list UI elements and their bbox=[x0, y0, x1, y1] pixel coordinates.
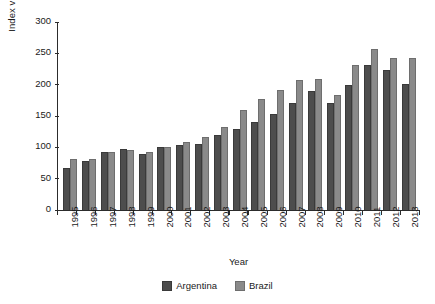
bar-group bbox=[230, 22, 249, 210]
bar-argentina-1997 bbox=[101, 152, 108, 210]
bar-argentina-2010 bbox=[345, 85, 352, 210]
x-tick-label-cell: 2012 bbox=[380, 216, 399, 252]
x-tick-label: 2013 bbox=[409, 206, 420, 227]
bar-brazil-2008 bbox=[315, 79, 322, 210]
bar-argentina-1995 bbox=[63, 168, 70, 210]
bar-brazil-2013 bbox=[409, 58, 416, 210]
x-tick-label-cell: 1998 bbox=[117, 216, 136, 252]
x-tick-label-cell: 2002 bbox=[192, 216, 211, 252]
bar-brazil-2011 bbox=[371, 49, 378, 210]
y-tick-label: 100 bbox=[35, 140, 51, 151]
bar-group bbox=[174, 22, 193, 210]
bar-brazil-2010 bbox=[352, 65, 359, 210]
x-tick-label-cell: 1996 bbox=[79, 216, 98, 252]
legend-swatch-brazil bbox=[235, 281, 245, 291]
bar-group bbox=[136, 22, 155, 210]
bar-group bbox=[193, 22, 212, 210]
bar-argentina-1996 bbox=[82, 161, 89, 211]
x-tick-label-cell: 2000 bbox=[154, 216, 173, 252]
y-tick-label: 150 bbox=[35, 109, 51, 120]
y-axis-title: Index value bbox=[6, 0, 17, 62]
bar-group bbox=[305, 22, 324, 210]
x-tick-mark bbox=[57, 211, 58, 215]
bar-brazil-1997 bbox=[108, 152, 115, 210]
bar-argentina-2012 bbox=[383, 70, 390, 210]
bar-argentina-2006 bbox=[270, 114, 277, 210]
bar-brazil-1999 bbox=[146, 152, 153, 210]
bar-group bbox=[80, 22, 99, 210]
x-axis-tick-labels: 1995199619971998199920002001200220032004… bbox=[57, 216, 420, 252]
bar-brazil-2001 bbox=[183, 142, 190, 210]
x-axis-title: Year bbox=[57, 256, 420, 267]
bar-argentina-2007 bbox=[289, 103, 296, 210]
bar-group bbox=[268, 22, 287, 210]
bar-brazil-2012 bbox=[390, 58, 397, 210]
bar-argentina-2003 bbox=[214, 135, 221, 210]
bar-group bbox=[362, 22, 381, 210]
bar-brazil-2006 bbox=[277, 90, 284, 210]
bar-brazil-2002 bbox=[202, 137, 209, 210]
x-tick-label-cell: 2001 bbox=[173, 216, 192, 252]
bar-group bbox=[211, 22, 230, 210]
bar-argentina-2004 bbox=[233, 129, 240, 210]
bar-series-container bbox=[58, 22, 420, 210]
x-tick-label-cell: 2010 bbox=[343, 216, 362, 252]
x-tick-label-cell: 2004 bbox=[230, 216, 249, 252]
bar-group bbox=[381, 22, 400, 210]
x-tick-label-cell: 2005 bbox=[248, 216, 267, 252]
bar-argentina-2005 bbox=[251, 122, 258, 210]
x-tick-label-cell: 2006 bbox=[267, 216, 286, 252]
y-tick-label: 200 bbox=[35, 78, 51, 89]
bar-argentina-2013 bbox=[402, 84, 409, 210]
bar-group bbox=[155, 22, 174, 210]
x-tick-label-cell: 1999 bbox=[135, 216, 154, 252]
bar-brazil-2009 bbox=[334, 95, 341, 210]
bar-group bbox=[324, 22, 343, 210]
bar-argentina-2001 bbox=[176, 145, 183, 210]
chart-legend: ArgentinaBrazil bbox=[0, 280, 435, 291]
bar-argentina-1998 bbox=[120, 149, 127, 210]
legend-item-brazil[interactable]: Brazil bbox=[235, 280, 273, 291]
bar-argentina-2000 bbox=[157, 147, 164, 210]
legend-label: Brazil bbox=[249, 280, 273, 291]
bar-brazil-1995 bbox=[70, 159, 77, 210]
bar-argentina-2002 bbox=[195, 144, 202, 210]
y-tick-label: 0 bbox=[46, 203, 51, 214]
x-tick-label-cell: 2007 bbox=[286, 216, 305, 252]
plot-area: 050100150200250300 bbox=[57, 22, 420, 211]
bar-group bbox=[117, 22, 136, 210]
bar-brazil-2003 bbox=[221, 127, 228, 210]
bar-group bbox=[287, 22, 306, 210]
x-tick-label-cell: 2008 bbox=[305, 216, 324, 252]
bar-brazil-1998 bbox=[127, 150, 134, 210]
bar-argentina-2008 bbox=[308, 91, 315, 210]
bar-group bbox=[399, 22, 418, 210]
bar-group bbox=[249, 22, 268, 210]
legend-label: Argentina bbox=[176, 280, 217, 291]
bar-argentina-2011 bbox=[364, 65, 371, 210]
x-tick-label-cell: 1997 bbox=[98, 216, 117, 252]
x-tick-label-cell: 2009 bbox=[324, 216, 343, 252]
legend-swatch-argentina bbox=[162, 281, 172, 291]
bar-brazil-2000 bbox=[164, 147, 171, 210]
bar-brazil-2004 bbox=[240, 110, 247, 210]
x-tick-label-cell: 1995 bbox=[60, 216, 79, 252]
x-tick-label-cell: 2013 bbox=[399, 216, 418, 252]
bar-brazil-2007 bbox=[296, 80, 303, 210]
y-tick-label: 300 bbox=[35, 15, 51, 26]
x-tick-label-cell: 2003 bbox=[211, 216, 230, 252]
chart-figure: Index value 050100150200250300 199519961… bbox=[0, 0, 435, 304]
legend-item-argentina[interactable]: Argentina bbox=[162, 280, 217, 291]
x-tick-label-cell: 2011 bbox=[362, 216, 381, 252]
bar-group bbox=[343, 22, 362, 210]
bar-argentina-2009 bbox=[327, 103, 334, 210]
y-tick-label: 250 bbox=[35, 46, 51, 57]
bar-group bbox=[99, 22, 118, 210]
bar-group bbox=[61, 22, 80, 210]
bar-brazil-1996 bbox=[89, 159, 96, 210]
bar-argentina-1999 bbox=[139, 154, 146, 210]
bar-brazil-2005 bbox=[258, 99, 265, 210]
y-tick-label: 50 bbox=[40, 172, 51, 183]
